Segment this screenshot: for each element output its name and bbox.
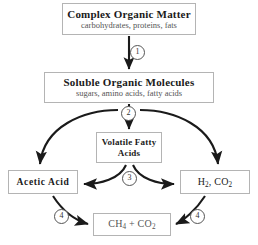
node-subtitle: sugars, amino acids, fatty acids	[76, 89, 182, 99]
node-acetic-acid: Acetic Acid	[8, 170, 78, 194]
node-title: H2, CO2	[198, 176, 233, 189]
step-marker-2: 2	[121, 106, 136, 121]
step-marker-4a: 4	[54, 209, 69, 224]
step-marker-1: 1	[130, 45, 145, 60]
step-marker-3: 3	[122, 171, 137, 186]
node-title: CH4 + CO2	[108, 218, 155, 231]
node-title: Complex Organic Matter	[67, 8, 191, 20]
edge-layer	[0, 0, 258, 245]
edge-vfa-to-h2-co2	[133, 165, 174, 184]
node-title: Volatile Fatty Acids	[97, 137, 161, 157]
node-title: Soluble Organic Molecules	[64, 76, 195, 88]
node-subtitle: carbohydrates, proteins, fats	[81, 21, 177, 31]
node-title: Acetic Acid	[17, 177, 70, 188]
node-ch4-co2: CH4 + CO2	[93, 213, 171, 236]
edge-vfa-to-acetic-acid	[84, 165, 126, 184]
node-h2-co2: H2, CO2	[180, 170, 250, 194]
node-complex-organic-matter: Complex Organic Matter carbohydrates, pr…	[62, 3, 196, 35]
diagram-canvas: Complex Organic Matter carbohydrates, pr…	[0, 0, 258, 245]
node-volatile-fatty-acids: Volatile Fatty Acids	[96, 132, 162, 163]
node-soluble-organic-molecules: Soluble Organic Molecules sugars, amino …	[44, 72, 214, 103]
step-marker-4b: 4	[190, 209, 205, 224]
